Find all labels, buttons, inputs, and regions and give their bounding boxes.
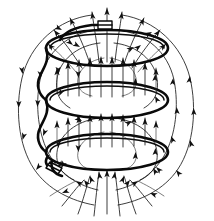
coil-terminal-top — [98, 21, 112, 29]
field-diagram-canvas — [0, 0, 214, 221]
solenoid-field-figure: Magnetic field of a current-carrying sol… — [0, 0, 214, 221]
